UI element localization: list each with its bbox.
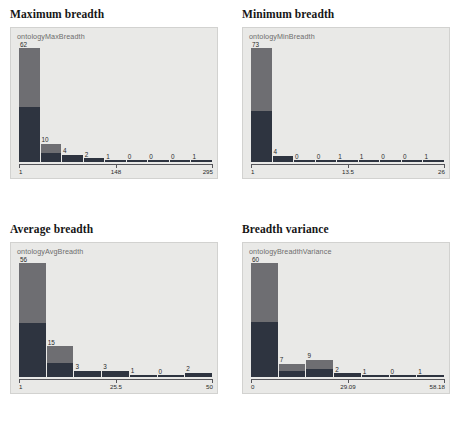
chart-grid: Maximum breadth ontologyMaxBreadth 62104… [0, 0, 465, 437]
bar-fill-dark [316, 160, 338, 162]
histogram-bar: 1 [423, 160, 445, 162]
bar-fill-dark [191, 160, 213, 162]
histogram-bar: 10 [41, 144, 63, 162]
bar-value-label: 62 [20, 41, 27, 48]
bar-value-label: 1 [363, 368, 367, 375]
axis-tick-label-start: 1 [251, 168, 254, 175]
bar-value-label: 4 [63, 147, 67, 154]
bar-fill-light [19, 48, 41, 107]
histogram-bar: 1 [359, 160, 381, 162]
bar-value-label: 2 [186, 365, 190, 372]
bar-fill-dark [337, 160, 359, 162]
bar-value-label: 4 [274, 148, 278, 155]
axis-tick-label-mid: 13.5 [342, 168, 354, 175]
bar-value-label: 1 [192, 153, 196, 160]
bar-fill-dark [74, 371, 102, 377]
axis-tick-label-end: 26 [438, 168, 445, 175]
histogram-bar: 1 [362, 375, 390, 377]
histogram-bar: 0 [294, 160, 316, 162]
histogram-maximum-breadth: ontologyMaxBreadth 62104210001 1 148 295 [10, 27, 218, 179]
bar-fill-light [279, 364, 307, 371]
bar-value-label: 73 [252, 41, 259, 48]
axis-tick-label-start: 1 [19, 168, 22, 175]
histogram-bar: 1 [105, 160, 127, 162]
bar-value-label: 0 [159, 368, 163, 375]
bar-value-label: 1 [131, 367, 135, 374]
bars-container: 62104210001 [19, 48, 213, 162]
panel-maximum-breadth: Maximum breadth ontologyMaxBreadth 62104… [0, 0, 232, 215]
bar-value-label: 2 [85, 151, 89, 158]
histogram-bar: 0 [390, 375, 418, 377]
histogram-bar: 1 [417, 375, 445, 377]
bar-value-label: 0 [295, 153, 299, 160]
page-title: Maximum breadth [10, 8, 224, 21]
bar-fill-dark [105, 160, 127, 162]
histogram-average-breadth: ontologyAvgBreadth 561533102 1 25.5 50 [10, 242, 218, 394]
bar-fill-dark [417, 375, 445, 377]
bar-fill-dark [185, 373, 213, 377]
histogram-bar: 0 [402, 160, 424, 162]
page-title: Minimum breadth [242, 8, 457, 21]
bar-fill-dark [84, 158, 106, 162]
histogram-bar: 1 [130, 375, 158, 377]
series-label: ontologyBreadthVariance [249, 247, 331, 256]
axis-tick-label-end: 295 [203, 168, 213, 175]
bar-value-label: 0 [403, 153, 407, 160]
page-title: Average breadth [10, 223, 224, 236]
axis-tick-label-mid: 148 [111, 168, 121, 175]
histogram-bar: 3 [74, 371, 102, 377]
panel-average-breadth: Average breadth ontologyAvgBreadth 56153… [0, 215, 232, 437]
bar-fill-dark [102, 371, 130, 377]
bar-value-label: 0 [317, 153, 321, 160]
histogram-bar: 0 [380, 160, 402, 162]
histogram-bar: 0 [127, 160, 149, 162]
axis-tick-label-end: 50 [206, 383, 213, 390]
histogram-bar: 7 [279, 364, 307, 377]
bar-fill-dark [62, 155, 84, 162]
histogram-bar: 0 [148, 160, 170, 162]
bars-container: 60792101 [251, 263, 445, 377]
bar-fill-dark [273, 156, 295, 162]
bar-fill-dark [334, 373, 362, 377]
axis-tick-label-mid: 29.09 [340, 383, 355, 390]
bar-value-label: 10 [42, 136, 49, 143]
bar-fill-light [306, 360, 334, 369]
bar-fill-light [41, 144, 63, 154]
bar-fill-dark [380, 160, 402, 162]
bar-fill-dark [170, 160, 192, 162]
bar-value-label: 3 [75, 363, 79, 370]
histogram-bar: 0 [158, 375, 186, 377]
bar-value-label: 9 [307, 352, 311, 359]
bar-fill-light [251, 263, 279, 322]
bar-value-label: 1 [360, 153, 364, 160]
axis-tick-label-mid: 25.5 [110, 383, 122, 390]
x-axis: 0 29.09 58.18 [251, 379, 445, 387]
bar-value-label: 3 [103, 363, 107, 370]
bar-fill-dark [294, 160, 316, 162]
histogram-breadth-variance: ontologyBreadthVariance 60792101 0 29.09… [242, 242, 450, 394]
bar-value-label: 2 [335, 366, 339, 373]
histogram-bar: 4 [273, 156, 295, 162]
axis-tick-label-start: 1 [19, 383, 22, 390]
bar-value-label: 0 [128, 153, 132, 160]
axis-tick-label-start: 0 [251, 383, 254, 390]
bar-fill-dark [158, 375, 186, 377]
panel-breadth-variance: Breadth variance ontologyBreadthVariance… [232, 215, 465, 437]
bar-value-label: 1 [424, 153, 428, 160]
histogram-minimum-breadth: ontologyMinBreadth 7340011001 1 13.5 26 [242, 27, 450, 179]
histogram-bar: 4 [62, 155, 84, 162]
bar-fill-dark [390, 375, 418, 377]
histogram-bar: 0 [316, 160, 338, 162]
histogram-bar: 60 [251, 263, 279, 377]
histogram-bar: 2 [334, 373, 362, 377]
bar-fill-dark [402, 160, 424, 162]
bar-value-label: 0 [149, 153, 153, 160]
axis-tick-label-end: 58.18 [430, 383, 445, 390]
bar-value-label: 60 [252, 256, 259, 263]
page-title: Breadth variance [242, 223, 457, 236]
bar-value-label: 1 [106, 153, 110, 160]
bars-container: 561533102 [19, 263, 213, 377]
series-label: ontologyMaxBreadth [17, 32, 85, 41]
bar-fill-dark [362, 375, 390, 377]
histogram-bar: 2 [84, 158, 106, 162]
